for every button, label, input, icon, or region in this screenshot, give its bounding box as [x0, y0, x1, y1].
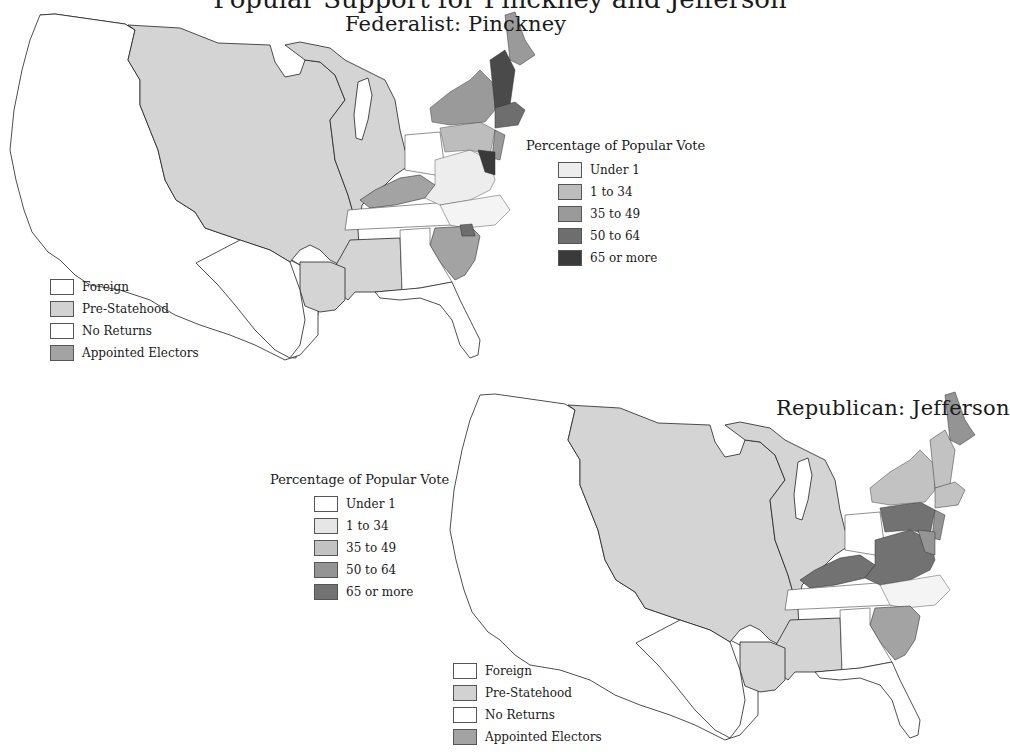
legend-swatch — [314, 540, 338, 556]
legend-item: No Returns — [453, 704, 602, 726]
legend-item: Foreign — [453, 660, 602, 682]
legend-heading: Percentage of Popular Vote — [526, 138, 705, 153]
legend-swatch — [314, 518, 338, 534]
region-pennsylvania — [440, 122, 495, 155]
legend-swatch — [453, 729, 477, 745]
federalist-map-title: Federalist: Pinckney — [345, 12, 566, 36]
legend-swatch — [453, 685, 477, 701]
legend-item: 1 to 34 — [558, 181, 705, 203]
legend-item: Appointed Electors — [453, 726, 602, 748]
legend-item: Under 1 — [558, 159, 705, 181]
region-florida — [375, 282, 480, 358]
legend-item: 65 or more — [314, 581, 449, 603]
federalist-status-legend: Foreign Pre-Statehood No Returns Appoint… — [50, 276, 199, 364]
region-new-york — [430, 70, 495, 125]
legend-item: Pre-Statehood — [453, 682, 602, 704]
legend-swatch — [314, 584, 338, 600]
legend-swatch — [50, 301, 74, 317]
legend-swatch — [314, 562, 338, 578]
legend-item: 35 to 49 — [314, 537, 449, 559]
legend-item: 1 to 34 — [314, 515, 449, 537]
legend-item: 50 to 64 — [558, 225, 705, 247]
region-louisiana-south — [300, 262, 345, 312]
republican-map-title: Republican: Jefferson — [776, 396, 1010, 420]
legend-swatch — [50, 279, 74, 295]
legend-swatch — [50, 345, 74, 361]
legend-swatch — [314, 496, 338, 512]
federalist-vote-legend: Percentage of Popular Vote Under 1 1 to … — [526, 138, 705, 269]
legend-item: No Returns — [50, 320, 199, 342]
legend-swatch — [558, 162, 582, 178]
legend-item: 50 to 64 — [314, 559, 449, 581]
legend-swatch — [453, 663, 477, 679]
legend-swatch — [453, 707, 477, 723]
legend-swatch — [558, 206, 582, 222]
legend-item: 35 to 49 — [558, 203, 705, 225]
legend-heading: Percentage of Popular Vote — [270, 472, 449, 487]
legend-swatch — [558, 228, 582, 244]
legend-item: Foreign — [50, 276, 199, 298]
legend-item: 65 or more — [558, 247, 705, 269]
legend-item: Appointed Electors — [50, 342, 199, 364]
legend-item: Under 1 — [314, 493, 449, 515]
legend-swatch — [50, 323, 74, 339]
legend-swatch — [558, 250, 582, 266]
legend-item: Pre-Statehood — [50, 298, 199, 320]
legend-swatch — [558, 184, 582, 200]
republican-status-legend: Foreign Pre-Statehood No Returns Appoint… — [453, 660, 602, 748]
republican-vote-legend: Percentage of Popular Vote Under 1 1 to … — [270, 472, 449, 603]
